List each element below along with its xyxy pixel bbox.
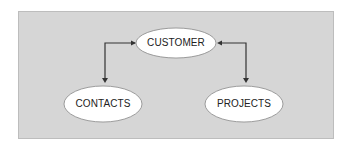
connector-customer-projects xyxy=(219,43,246,79)
arrowhead-icon xyxy=(243,78,249,83)
arrowhead-icon xyxy=(102,78,108,83)
arrowhead-icon xyxy=(217,41,222,46)
customer-label: CUSTOMER xyxy=(136,37,216,48)
contacts-label: CONTACTS xyxy=(64,98,142,109)
projects-label: PROJECTS xyxy=(205,98,283,109)
connector-customer-contacts xyxy=(105,43,135,79)
diagram-canvas xyxy=(0,0,351,148)
